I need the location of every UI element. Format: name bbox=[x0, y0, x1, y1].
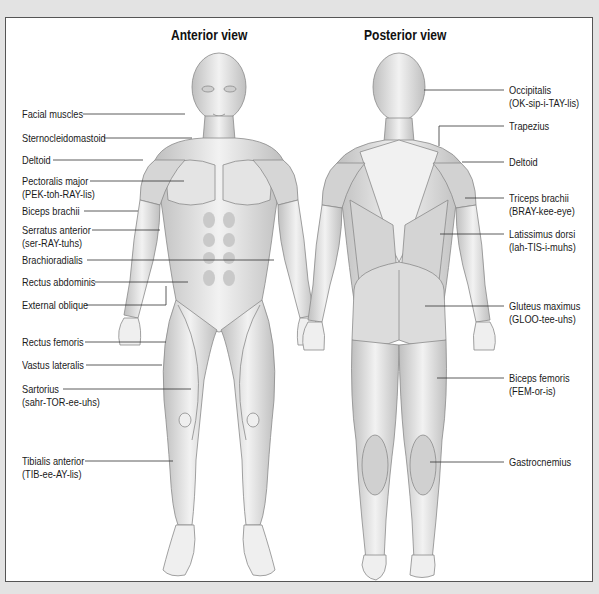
label-pectoralis-major: Pectoralis major (PEK-toh-RAY-lis) bbox=[22, 175, 95, 200]
label-biceps-brachii: Biceps brachii bbox=[22, 205, 80, 218]
label-sartorius: Sartorius (sahr-TOR-ee-uhs) bbox=[22, 383, 100, 408]
tibialis-anterior-pronunciation: (TIB-ee-AY-lis) bbox=[22, 468, 84, 481]
triceps-brachii-pronunciation: (BRAY-kee-eye) bbox=[509, 205, 575, 218]
label-sternocleidomastoid: Sternocleidomastoid bbox=[22, 132, 106, 145]
sartorius-pronunciation: (sahr-TOR-ee-uhs) bbox=[22, 396, 100, 409]
label-rectus-femoris: Rectus femoris bbox=[22, 336, 84, 349]
label-trapezius: Trapezius bbox=[509, 120, 549, 133]
label-triceps-brachii: Triceps brachii (BRAY-kee-eye) bbox=[509, 192, 575, 217]
occipitalis-pronunciation: (OK-sip-i-TAY-lis) bbox=[509, 97, 579, 110]
label-vastus-lateralis: Vastus lateralis bbox=[22, 359, 84, 372]
triceps-brachii-name: Triceps brachii bbox=[509, 192, 569, 204]
sartorius-name: Sartorius bbox=[22, 383, 59, 395]
serratus-anterior-pronunciation: (ser-RAY-tuhs) bbox=[22, 237, 91, 250]
label-gluteus-maximus: Gluteus maximus (GLOO-tee-uhs) bbox=[509, 300, 580, 325]
tibialis-anterior-name: Tibialis anterior bbox=[22, 455, 84, 467]
label-occipitalis: Occipitalis (OK-sip-i-TAY-lis) bbox=[509, 84, 579, 109]
label-gastrocnemius: Gastrocnemius bbox=[509, 456, 571, 469]
label-biceps-femoris: Biceps femoris (FEM-or-is) bbox=[509, 372, 570, 397]
label-deltoid-posterior: Deltoid bbox=[509, 156, 538, 169]
posterior-figure bbox=[303, 53, 496, 580]
biceps-femoris-name: Biceps femoris bbox=[509, 372, 570, 384]
label-latissimus-dorsi: Latissimus dorsi (lah-TIS-i-muhs) bbox=[509, 228, 576, 253]
biceps-femoris-pronunciation: (FEM-or-is) bbox=[509, 385, 570, 398]
anterior-figure bbox=[119, 53, 320, 576]
pectoralis-major-pronunciation: (PEK-toh-RAY-lis) bbox=[22, 188, 95, 201]
label-brachioradialis: Brachioradialis bbox=[22, 254, 83, 267]
posterior-view-title: Posterior view bbox=[364, 27, 446, 43]
serratus-anterior-name: Serratus anterior bbox=[22, 224, 91, 236]
occipitalis-name: Occipitalis bbox=[509, 84, 551, 96]
label-tibialis-anterior: Tibialis anterior (TIB-ee-AY-lis) bbox=[22, 455, 84, 480]
label-rectus-abdominis: Rectus abdominis bbox=[22, 276, 95, 289]
label-deltoid-anterior: Deltoid bbox=[22, 154, 51, 167]
label-external-oblique: External oblique bbox=[22, 299, 88, 312]
anterior-view-title: Anterior view bbox=[171, 27, 247, 43]
latissimus-dorsi-pronunciation: (lah-TIS-i-muhs) bbox=[509, 241, 576, 254]
pectoralis-major-name: Pectoralis major bbox=[22, 175, 88, 187]
label-serratus-anterior: Serratus anterior (ser-RAY-tuhs) bbox=[22, 224, 91, 249]
latissimus-dorsi-name: Latissimus dorsi bbox=[509, 228, 575, 240]
gluteus-maximus-pronunciation: (GLOO-tee-uhs) bbox=[509, 313, 580, 326]
gluteus-maximus-name: Gluteus maximus bbox=[509, 300, 580, 312]
label-facial-muscles: Facial muscles bbox=[22, 108, 83, 121]
